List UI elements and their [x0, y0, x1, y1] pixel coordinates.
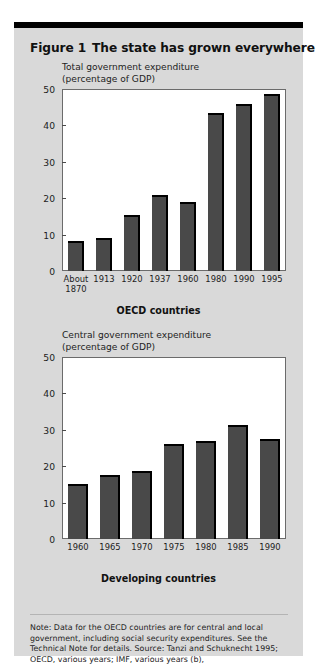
bar [68, 484, 87, 539]
x-axis-tick-label: 1975 [158, 543, 190, 553]
y-axis-tick-mark [62, 235, 66, 236]
x-axis-tick-label: 1980 [190, 543, 222, 553]
bar [152, 195, 169, 271]
group-label-oecd: OECD countries [14, 305, 303, 316]
x-axis-tick-label: 1970 [126, 543, 158, 553]
y-axis-tick-label: 30 [43, 156, 55, 167]
x-axis-tick-label: 1965 [94, 543, 126, 553]
axis-title-line1: Total government expenditure [62, 62, 199, 74]
chart-axis-title-developing: Central government expenditure (percenta… [62, 330, 211, 353]
y-axis-tick-label: 20 [43, 193, 55, 204]
x-axis-tick-label: 1960 [62, 543, 94, 553]
axis-title-line2: (percentage of GDP) [62, 74, 199, 86]
bar [208, 113, 225, 271]
y-axis-tick-mark [62, 466, 66, 467]
y-axis-tick-label: 40 [43, 388, 55, 399]
figure-page: Figure 1The state has grown everywhere T… [0, 0, 317, 666]
y-axis-tick-label: 40 [43, 120, 55, 131]
figure-number: Figure 1 [30, 41, 86, 55]
bar [236, 104, 253, 271]
bar [180, 202, 197, 271]
note-divider [30, 614, 288, 615]
chart-axis-title-oecd: Total government expenditure (percentage… [62, 62, 199, 85]
plot-area-oecd [62, 89, 286, 271]
bar [124, 215, 141, 271]
x-axis-tick-label: 1985 [222, 543, 254, 553]
group-label-developing: Developing countries [14, 573, 303, 584]
y-axis-tick-mark [62, 198, 66, 199]
x-axis-tick-label: 1995 [258, 275, 286, 285]
plot-area-developing [62, 357, 286, 539]
axis-title-line1: Central government expenditure [62, 330, 211, 342]
x-axis-tick-label: 1960 [174, 275, 202, 285]
y-axis-tick-label: 30 [43, 424, 55, 435]
y-axis-tick-label: 10 [43, 229, 55, 240]
figure-title-text: The state has grown everywhere [92, 41, 315, 55]
bar [164, 444, 183, 539]
y-axis-tick-mark [62, 430, 66, 431]
x-axis-tick-label: 1937 [146, 275, 174, 285]
y-axis-tick-mark [62, 503, 66, 504]
y-axis-tick-mark [62, 393, 66, 394]
figure-title: Figure 1The state has grown everywhere [30, 41, 292, 55]
bar [228, 425, 247, 539]
x-axis-tick-label: 1990 [230, 275, 258, 285]
y-axis-tick-mark [62, 162, 66, 163]
y-axis-tick-label: 0 [49, 266, 55, 277]
y-axis-tick-label: 50 [43, 84, 55, 95]
bar [132, 471, 151, 539]
y-axis-tick-label: 0 [49, 534, 55, 545]
bar [100, 475, 119, 539]
y-axis-tick-label: 50 [43, 352, 55, 363]
bar [96, 238, 113, 271]
x-axis-tick-label: 1913 [90, 275, 118, 285]
figure-note: Note: Data for the OECD countries are fo… [30, 623, 292, 665]
x-axis-tick-label: 1980 [202, 275, 230, 285]
x-axis-tick-label: About 1870 [62, 275, 90, 294]
top-rule [14, 22, 303, 28]
bar [264, 94, 281, 271]
bar [196, 441, 215, 539]
axis-title-line2: (percentage of GDP) [62, 342, 211, 354]
x-axis-tick-label: 1990 [254, 543, 286, 553]
y-axis-tick-mark [62, 125, 66, 126]
bar [260, 439, 279, 539]
x-axis-tick-label: 1920 [118, 275, 146, 285]
figure-card: Figure 1The state has grown everywhere T… [14, 22, 303, 656]
bar [68, 241, 85, 271]
y-axis-tick-label: 20 [43, 461, 55, 472]
y-axis-tick-label: 10 [43, 497, 55, 508]
